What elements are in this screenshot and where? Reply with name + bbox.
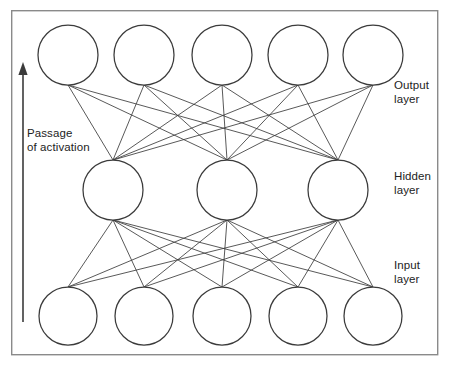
input-neuron (269, 287, 327, 345)
connection-hidden-to-output (227, 85, 298, 160)
connection-hidden-to-output (298, 85, 338, 160)
input-layer-nodes (39, 287, 402, 345)
hidden-layer-label: Hidden layer (394, 170, 431, 197)
connection-input-to-hidden (298, 220, 338, 287)
connection-input-to-hidden (113, 220, 373, 287)
network-canvas (0, 0, 449, 368)
hidden-neuron (308, 160, 368, 220)
connection-hidden-to-output (113, 85, 373, 160)
connection-input-to-hidden (338, 220, 373, 287)
output-layer-nodes (38, 25, 403, 85)
connection-hidden-to-output (222, 85, 227, 160)
connection-input-to-hidden (222, 220, 338, 287)
connection-hidden-to-output (113, 85, 144, 160)
connection-input-to-hidden (113, 220, 144, 287)
connection-input-to-hidden (68, 220, 113, 287)
connection-input-to-hidden (227, 220, 373, 287)
output-neuron (192, 25, 252, 85)
neural-network-diagram: Output layer Hidden layer Input layer Pa… (0, 0, 449, 368)
output-neuron (38, 25, 98, 85)
connection-hidden-to-output (222, 85, 338, 160)
connection-hidden-to-output (227, 85, 373, 160)
connection-input-to-hidden (144, 220, 338, 287)
connection-input-to-hidden (222, 220, 227, 287)
output-neuron (343, 25, 403, 85)
input-neuron (115, 287, 173, 345)
connection-input-to-hidden (144, 220, 227, 287)
passage-of-activation-arrow (18, 62, 27, 322)
hidden-neuron (83, 160, 143, 220)
connections-input-to-hidden (68, 220, 373, 287)
passage-of-activation-label: Passage of activation (27, 126, 90, 154)
input-neuron (193, 287, 251, 345)
hidden-layer-nodes (83, 160, 368, 220)
connection-input-to-hidden (227, 220, 298, 287)
hidden-neuron (197, 160, 257, 220)
connections-hidden-to-output (68, 85, 373, 160)
connection-hidden-to-output (338, 85, 373, 160)
input-layer-label: Input layer (394, 259, 420, 286)
connection-hidden-to-output (144, 85, 227, 160)
input-neuron (344, 287, 402, 345)
output-neuron (268, 25, 328, 85)
input-neuron (39, 287, 97, 345)
connection-hidden-to-output (144, 85, 338, 160)
output-neuron (114, 25, 174, 85)
output-layer-label: Output layer (394, 79, 429, 106)
